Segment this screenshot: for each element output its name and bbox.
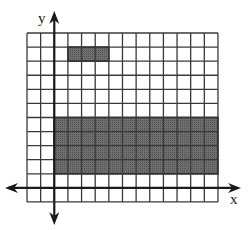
small-rectangle	[68, 47, 109, 61]
y-axis-label: y	[38, 10, 46, 26]
coordinate-grid-diagram: y x	[0, 0, 250, 230]
x-axis-label: x	[230, 191, 238, 207]
grid-lines	[27, 33, 218, 202]
